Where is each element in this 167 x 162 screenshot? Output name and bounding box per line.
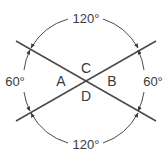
angle-label-top: 120° (73, 11, 100, 26)
angle-diagram: 120° 120° 60° 60° A B C D (0, 0, 167, 162)
arc-right-top (138, 50, 144, 70)
angle-label-bottom: 120° (73, 137, 100, 152)
arc-bottom-left (31, 113, 68, 143)
arc-top-left (31, 19, 68, 48)
arc-bottom-right (103, 113, 138, 143)
region-label-a: A (56, 73, 66, 89)
region-label-d: D (81, 88, 91, 104)
region-label-c: C (81, 60, 91, 76)
arc-left-bottom (24, 92, 30, 111)
diagram-canvas: 120° 120° 60° 60° A B C D (0, 0, 167, 162)
arc-top-right (103, 19, 138, 48)
angle-label-left: 60° (5, 74, 25, 89)
arc-left-top (24, 50, 30, 70)
arc-right-bottom (138, 92, 144, 111)
region-label-b: B (107, 73, 116, 89)
angle-label-right: 60° (143, 74, 163, 89)
